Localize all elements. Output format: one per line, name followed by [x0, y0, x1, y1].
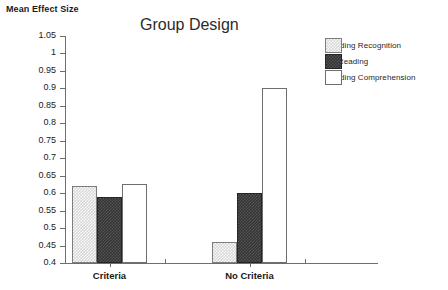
x-group-label: Criteria — [93, 270, 126, 281]
y-tick: 0.4 — [60, 263, 65, 264]
legend-item-no-reading: No Reading — [325, 57, 416, 66]
y-tick-label: 0.45 — [38, 240, 56, 250]
y-tick-label: 0.65 — [38, 170, 56, 180]
x-tick-minor — [305, 259, 306, 264]
y-tick-label: 0.8 — [43, 117, 56, 127]
legend-swatch-reading-recognition — [325, 38, 342, 53]
legend-swatch-reading-comprehension — [325, 70, 342, 85]
y-tick-label: 0.75 — [38, 135, 56, 145]
legend-item-reading-recognition: Reading Recognition — [325, 41, 416, 50]
x-tick — [110, 263, 111, 267]
y-tick: 0.45 — [60, 246, 65, 247]
y-tick: 0.85 — [60, 106, 65, 107]
y-tick-label: 0.4 — [43, 257, 56, 267]
y-tick: 0.6 — [60, 193, 65, 194]
bar — [212, 242, 237, 263]
y-tick-label: 0.85 — [38, 100, 56, 110]
bar — [122, 184, 147, 263]
y-tick-label: 0.9 — [43, 82, 56, 92]
y-tick: 1 — [60, 53, 65, 54]
y-axis-line — [65, 36, 66, 263]
y-tick-label: 1 — [51, 47, 56, 57]
x-group-label: No Criteria — [225, 270, 274, 281]
y-tick: 0.55 — [60, 211, 65, 212]
y-tick: 1.05 — [60, 36, 65, 37]
x-tick-minor — [165, 259, 166, 264]
y-tick-label: 1.05 — [38, 30, 56, 40]
y-tick: 0.5 — [60, 228, 65, 229]
y-tick: 0.75 — [60, 141, 65, 142]
y-axis-title: Mean Effect Size — [6, 4, 79, 14]
legend-item-reading-comprehension: Reading Comprehension — [325, 73, 416, 82]
bar — [262, 88, 287, 263]
y-tick-label: 0.6 — [43, 187, 56, 197]
y-tick-label: 0.5 — [43, 222, 56, 232]
y-tick-label: 0.95 — [38, 65, 56, 75]
x-axis-line — [65, 263, 378, 264]
bar — [72, 186, 97, 263]
x-tick — [250, 263, 251, 267]
y-tick-label: 0.7 — [43, 152, 56, 162]
chart-legend: Reading Recognition No Reading Reading C… — [325, 41, 416, 82]
y-tick: 0.7 — [60, 158, 65, 159]
legend-swatch-no-reading — [325, 54, 342, 69]
bar — [237, 193, 262, 263]
chart-screenshot: Mean Effect Size Group Design 1.0510.950… — [0, 0, 448, 290]
y-tick-label: 0.55 — [38, 205, 56, 215]
y-tick: 0.95 — [60, 71, 65, 72]
y-tick: 0.8 — [60, 123, 65, 124]
bar — [97, 197, 122, 263]
y-tick: 0.65 — [60, 176, 65, 177]
y-tick: 0.9 — [60, 88, 65, 89]
chart-title: Group Design — [140, 16, 239, 34]
